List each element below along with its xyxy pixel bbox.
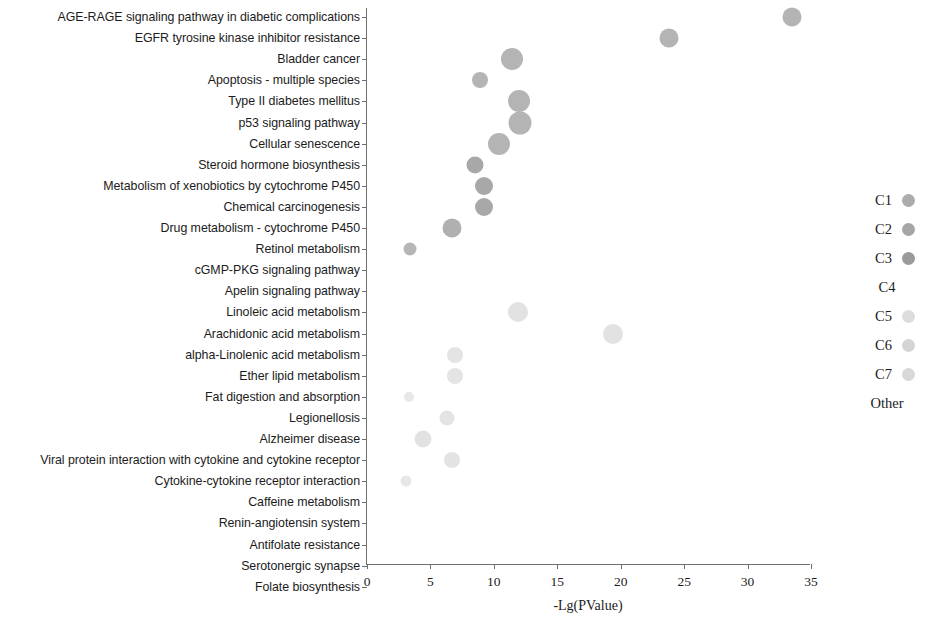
legend-color-swatch [902, 368, 915, 381]
x-axis-tick-label: 35 [804, 574, 818, 590]
data-point-bubble [782, 8, 801, 27]
legend-item-label: C7 [858, 366, 902, 383]
y-axis-label: Bladder cancer [0, 53, 360, 66]
x-axis-tick [367, 564, 368, 569]
y-axis-tick [362, 249, 367, 250]
y-axis-tick [362, 207, 367, 208]
y-axis-tick [362, 502, 367, 503]
plot-area: 05101520253035 [366, 8, 810, 565]
y-axis-label: Viral protein interaction with cytokine … [0, 454, 360, 467]
y-axis-label: Type II diabetes mellitus [0, 95, 360, 108]
y-axis-label: AGE-RAGE signaling pathway in diabetic c… [0, 11, 360, 24]
y-axis-tick [362, 38, 367, 39]
y-axis-tick [362, 545, 367, 546]
legend-item[interactable]: C7 [858, 360, 940, 389]
legend-item[interactable]: C6 [858, 331, 940, 360]
y-axis-tick [362, 80, 367, 81]
x-axis-tick-label: 10 [487, 574, 501, 590]
data-point-bubble [447, 368, 463, 384]
legend-color-swatch [902, 223, 915, 236]
data-point-bubble [444, 452, 460, 468]
x-axis-title: -Lg(PValue) [366, 598, 810, 614]
y-axis-tick [362, 291, 367, 292]
y-axis-label: EGFR tyrosine kinase inhibitor resistanc… [0, 32, 360, 45]
legend-item[interactable]: C4 [858, 273, 940, 302]
data-point-bubble [475, 198, 493, 216]
legend-color-swatch [902, 252, 915, 265]
y-axis-label: Drug metabolism - cytochrome P450 [0, 222, 360, 235]
legend-color-swatch [902, 194, 915, 207]
x-axis-tick-label: 25 [677, 574, 691, 590]
legend-item-label: C4 [858, 279, 916, 296]
legend-color-swatch [902, 339, 915, 352]
y-axis-label: Alzheimer disease [0, 433, 360, 446]
x-axis-tick-label: 0 [364, 574, 371, 590]
x-axis-tick [557, 564, 558, 569]
y-axis-category-labels: AGE-RAGE signaling pathway in diabetic c… [0, 0, 360, 575]
y-axis-label: cGMP-PKG signaling pathway [0, 264, 360, 277]
data-point-bubble [509, 111, 532, 134]
x-axis-tick-label: 30 [741, 574, 755, 590]
data-point-bubble [475, 177, 493, 195]
y-axis-label: Chemical carcinogenesis [0, 200, 360, 213]
data-point-bubble [439, 410, 454, 425]
legend-item[interactable]: C1 [858, 186, 940, 215]
y-axis-tick [362, 523, 367, 524]
legend-item[interactable]: Other [858, 389, 940, 418]
y-axis-label: Arachidonic acid metabolism [0, 327, 360, 340]
y-axis-tick [362, 418, 367, 419]
y-axis-label: Metabolism of xenobiotics by cytochrome … [0, 179, 360, 192]
y-axis-tick [362, 59, 367, 60]
x-axis-tick [748, 564, 749, 569]
y-axis-tick [362, 376, 367, 377]
data-point-bubble [404, 243, 417, 256]
data-point-bubble [447, 347, 463, 363]
y-axis-tick [362, 439, 367, 440]
data-point-bubble [466, 156, 483, 173]
y-axis-tick [362, 397, 367, 398]
y-axis-label: alpha-Linolenic acid metabolism [0, 348, 360, 361]
data-point-bubble [508, 302, 528, 322]
y-axis-label: p53 signaling pathway [0, 116, 360, 129]
y-axis-tick [362, 186, 367, 187]
y-axis-tick [362, 334, 367, 335]
legend-item[interactable]: C3 [858, 244, 940, 273]
legend: C1C2C3C4C5C6C7Other [858, 186, 940, 418]
y-axis-tick [362, 101, 367, 102]
x-axis-tick [430, 564, 431, 569]
x-axis-tick [684, 564, 685, 569]
data-point-bubble [501, 48, 523, 70]
x-axis-tick-label: 20 [614, 574, 628, 590]
y-axis-label: Retinol metabolism [0, 243, 360, 256]
x-axis-tick [494, 564, 495, 569]
x-axis-tick [811, 564, 812, 569]
legend-item-label: C3 [858, 250, 902, 267]
legend-item-label: C1 [858, 192, 902, 209]
data-point-bubble [442, 219, 461, 238]
y-axis-tick [362, 165, 367, 166]
y-axis-tick [362, 460, 367, 461]
legend-item-label: C2 [858, 221, 902, 238]
y-axis-label: Linoleic acid metabolism [0, 306, 360, 319]
y-axis-label: Serotonergic synapse [0, 559, 360, 572]
y-axis-tick [362, 123, 367, 124]
y-axis-label: Legionellosis [0, 411, 360, 424]
data-point-bubble [659, 29, 678, 48]
data-point-bubble [488, 133, 510, 155]
data-point-bubble [401, 476, 412, 487]
data-point-bubble [472, 72, 488, 88]
y-axis-label: Renin-angiotensin system [0, 517, 360, 530]
y-axis-label: Cellular senescence [0, 137, 360, 150]
legend-item[interactable]: C5 [858, 302, 940, 331]
y-axis-label: Fat digestion and absorption [0, 390, 360, 403]
legend-item[interactable]: C2 [858, 215, 940, 244]
y-axis-tick [362, 270, 367, 271]
y-axis-label: Cytokine-cytokine receptor interaction [0, 475, 360, 488]
y-axis-tick [362, 481, 367, 482]
legend-item-label: Other [858, 395, 916, 412]
data-point-bubble [508, 90, 530, 112]
legend-color-swatch [902, 310, 915, 323]
y-axis-tick [362, 312, 367, 313]
y-axis-tick [362, 17, 367, 18]
data-point-bubble [603, 324, 623, 344]
